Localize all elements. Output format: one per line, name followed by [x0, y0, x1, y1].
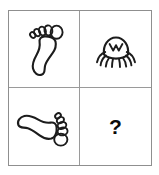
matrix-grid: ?: [8, 10, 152, 166]
crab-icon: [92, 27, 140, 71]
footprint-icon: [22, 20, 66, 78]
matrix-cell-top-right[interactable]: [80, 11, 151, 88]
matrix-cell-bottom-right[interactable]: ?: [80, 88, 151, 165]
footprint-rotated-icon: [15, 105, 73, 149]
matrix-cell-top-left[interactable]: [9, 11, 80, 88]
question-mark-icon: ?: [109, 116, 122, 137]
analogy-puzzle: ?: [0, 0, 159, 175]
matrix-cell-bottom-left[interactable]: [9, 88, 80, 165]
